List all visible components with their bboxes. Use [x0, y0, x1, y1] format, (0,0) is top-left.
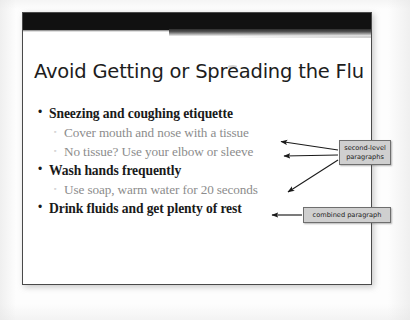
bullet-text: Wash hands frequently: [49, 163, 181, 179]
bullet-level1-sneezing: • Sneezing and coughing etiquette: [38, 106, 363, 122]
callout-second-level-paragraphs: second-level paragraphs: [339, 140, 391, 165]
bullet-text: Sneezing and coughing etiquette: [49, 106, 233, 122]
bullet-dot-icon: •: [38, 163, 49, 175]
bullet-text: Drink fluids and get plenty of rest: [49, 201, 242, 217]
bullet-square-icon: ▫: [54, 128, 64, 135]
bullet-level2-no-tissue: ▫ No tissue? Use your elbow or sleeve: [38, 144, 363, 160]
slide-title: Avoid Getting or Spreading the Flu: [34, 60, 364, 83]
bullet-text: No tissue? Use your elbow or sleeve: [64, 144, 253, 160]
bullet-text: Use soap, warm water for 20 seconds: [64, 182, 258, 198]
callout-combined-paragraph: combined paragraph: [303, 207, 391, 223]
slide-header-gray-band: [169, 29, 371, 36]
bullet-dot-icon: •: [38, 106, 49, 118]
presentation-slide: Avoid Getting or Spreading the Flu • Sne…: [22, 12, 372, 285]
slide-header-bar: [23, 13, 371, 30]
bullet-square-icon: ▫: [54, 147, 64, 154]
bullet-level1-wash-hands: • Wash hands frequently: [38, 163, 363, 179]
bullet-square-icon: ▫: [54, 185, 64, 192]
bullet-text: Cover mouth and nose with a tissue: [64, 125, 249, 141]
bullet-level2-cover-mouth: ▫ Cover mouth and nose with a tissue: [38, 125, 363, 141]
slide-header-highlight-line: [218, 36, 371, 38]
scanned-page: Avoid Getting or Spreading the Flu • Sne…: [0, 0, 410, 320]
slide-bullet-list: • Sneezing and coughing etiquette ▫ Cove…: [38, 106, 363, 218]
bullet-level2-use-soap: ▫ Use soap, warm water for 20 seconds: [38, 182, 363, 198]
bullet-dot-icon: •: [38, 201, 49, 213]
